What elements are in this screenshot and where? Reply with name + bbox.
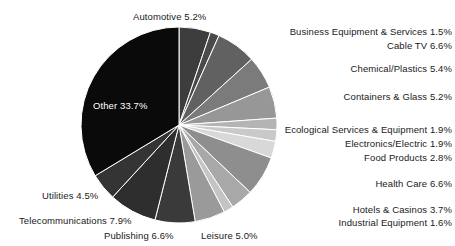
slice-label-industrial-equipment: Industrial Equipment 1.6% xyxy=(339,217,452,228)
pie-chart: Automotive 5.2% Business Equipment & Ser… xyxy=(0,0,455,246)
slice-label-utilities: Utilities 4.5% xyxy=(42,190,98,201)
slice-label-publishing: Publishing 6.6% xyxy=(104,230,174,241)
slice-label-automotive: Automotive 5.2% xyxy=(133,11,206,22)
slice-label-other: Other 33.7% xyxy=(93,100,147,111)
slice-label-containers-glass: Containers & Glass 5.2% xyxy=(344,91,452,102)
slice-label-ecological: Ecological Services & Equipment 1.9% xyxy=(285,124,452,135)
slice-label-electronics: Electronics/Electric 1.9% xyxy=(345,138,452,149)
pie-slices xyxy=(81,27,277,223)
slice-label-health-care: Health Care 6.6% xyxy=(375,178,452,189)
slice-label-food-products: Food Products 2.8% xyxy=(364,152,452,163)
slice-label-telecommunications: Telecommunications 7.9% xyxy=(19,215,132,226)
slice-label-cable-tv: Cable TV 6.6% xyxy=(387,40,452,51)
slice-label-chemical-plastics: Chemical/Plastics 5.4% xyxy=(351,63,452,74)
slice-label-business-equipment: Business Equipment & Services 1.5% xyxy=(290,26,452,37)
slice-label-leisure: Leisure 5.0% xyxy=(201,230,258,241)
slice-label-hotels-casinos: Hotels & Casinos 3.7% xyxy=(353,204,452,215)
